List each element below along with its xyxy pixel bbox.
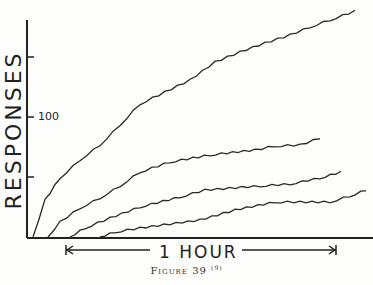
curve-3 bbox=[70, 171, 341, 237]
curve-4 bbox=[100, 191, 366, 237]
figure-caption: Figure 39 (9) bbox=[0, 264, 373, 276]
x-axis-label: 1 HOUR bbox=[155, 242, 242, 262]
y-tick-label-100: 100 bbox=[38, 110, 59, 123]
caption-text: Figure 39 bbox=[150, 265, 206, 276]
caption-ref: (9) bbox=[211, 264, 223, 271]
response-curves bbox=[33, 10, 366, 237]
y-axis-label: RESPONSES bbox=[1, 60, 26, 210]
